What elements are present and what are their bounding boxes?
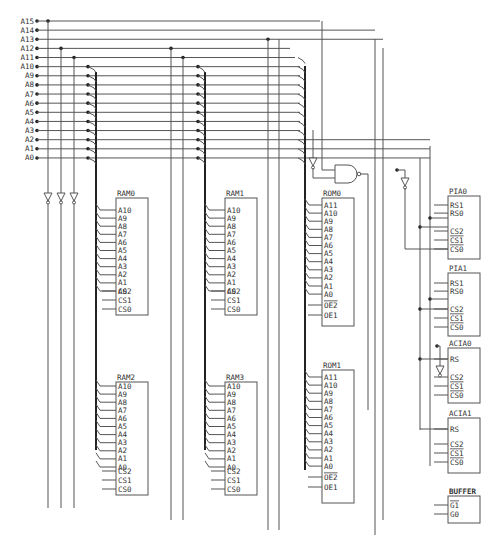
junction-dot: [86, 65, 90, 69]
pin-label: CS0: [227, 305, 241, 314]
pin-label: CS2: [118, 287, 132, 296]
pin-label: OE1: [324, 483, 338, 492]
address-label-a3: A3: [25, 126, 34, 135]
pin-label: CS0: [450, 458, 464, 467]
pin-label: CS0: [450, 323, 464, 332]
pin-label: CS2: [227, 287, 241, 296]
pin-label: G0: [450, 510, 460, 519]
pin-label: RS0: [450, 209, 464, 218]
pin-label: CS2: [450, 305, 464, 314]
pin-label: CS1: [450, 449, 464, 458]
chip-ram1: RAM1A10A9A8A7A6A5A4A3A2A1A0CS2CS1CS0: [225, 189, 257, 315]
pin-label: CS0: [450, 245, 464, 254]
address-label-a0: A0: [25, 153, 35, 162]
pin-label: CS1: [227, 296, 241, 305]
address-label-a7: A7: [25, 90, 34, 99]
inverter-icon: [44, 193, 52, 204]
pin-label: A0: [324, 462, 334, 471]
address-label-a14: A14: [20, 26, 34, 35]
pin-label: RS0: [450, 287, 464, 296]
inverter-icon: [70, 193, 78, 204]
pin-label: OE2: [324, 301, 338, 310]
inverter-icon: [57, 193, 65, 204]
chip-pia1: PIA1RS1RS0CS2CS1CS0: [448, 264, 480, 336]
address-label-a6: A6: [25, 99, 35, 108]
address-label-a2: A2: [25, 135, 34, 144]
chip-rom0: ROM0A11A10A9A8A7A6A5A4A3A2A1A0OE2OE1: [322, 189, 354, 326]
pin-label: CS1: [450, 314, 464, 323]
pin-label: OE1: [324, 311, 338, 320]
chip-ram0: RAM0A10A9A8A7A6A5A4A3A2A1A0CS2CS1CS0: [116, 189, 148, 315]
address-label-a4: A4: [25, 117, 35, 126]
pin-label: CS1: [118, 296, 132, 305]
pin-label: CS1: [450, 382, 464, 391]
inverter-icon: [309, 158, 317, 169]
address-label-a9: A9: [25, 71, 34, 80]
address-label-a12: A12: [20, 44, 34, 53]
pin-label: CS1: [118, 476, 132, 485]
chip-title: RAM1: [226, 189, 244, 198]
chip-pia0: PIA0RS1RS0CS2CS1CS0: [448, 187, 480, 259]
pin-label: CS2: [450, 373, 464, 382]
pin-label: CS2: [118, 467, 132, 476]
pin-label: G1: [450, 501, 459, 510]
chip-acia0: ACIA0RSCS2CS1CS0: [448, 339, 480, 403]
inverter-icon: [401, 178, 409, 189]
chip-ram3: RAM3A10A9A8A7A6A5A4A3A2A1A0CS2CS1CS0: [225, 373, 257, 495]
address-label-a5: A5: [25, 108, 34, 117]
pin-label: CS2: [227, 467, 241, 476]
pin-label: CS0: [227, 485, 241, 494]
chip-title: PIA1: [449, 264, 467, 273]
address-label-a1: A1: [25, 144, 34, 153]
pin-label: RS: [450, 425, 460, 434]
pin-label: A0: [324, 290, 334, 299]
pin-label: CS0: [118, 305, 132, 314]
pin-label: CS0: [450, 391, 464, 400]
pin-label: CS1: [227, 476, 241, 485]
chip-title: ROM1: [323, 361, 341, 370]
address-bus: A15A14A13A12A11A10A9A8A7A6A5A4A3A2A1A0: [20, 17, 34, 163]
pin-label: CS2: [450, 440, 464, 449]
junction-dot: [86, 92, 90, 96]
chip-buffer: BUFFERG1G0: [448, 487, 480, 523]
address-label-a15: A15: [20, 17, 34, 26]
chip-title: ACIA0: [449, 339, 472, 348]
chip-title: ACIA1: [449, 409, 472, 418]
chip-acia1: ACIA1RSCS2CS1CS0: [448, 409, 480, 473]
address-label-a11: A11: [20, 53, 34, 62]
pin-label: CS2: [450, 227, 464, 236]
chip-rom1: ROM1A11A10A9A8A7A6A5A4A3A2A1A0OE2OE1: [322, 361, 354, 503]
junction-dot: [86, 120, 90, 124]
address-label-a10: A10: [20, 62, 34, 71]
nand-gate-icon: [335, 165, 361, 183]
pin-label: CS0: [118, 485, 132, 494]
address-label-a8: A8: [25, 80, 35, 89]
inverter-icon: [436, 366, 444, 377]
chip-title: BUFFER: [449, 487, 477, 496]
schematic-canvas: A15A14A13A12A11A10A9A8A7A6A5A4A3A2A1A0RA…: [0, 0, 499, 547]
pin-label: RS: [450, 355, 460, 364]
chip-ram2: RAM2A10A9A8A7A6A5A4A3A2A1A0CS2CS1CS0: [116, 373, 148, 495]
chip-title: ROM0: [323, 189, 342, 198]
pin-label: OE2: [324, 473, 338, 482]
address-label-a13: A13: [20, 35, 34, 44]
chip-title: PIA0: [449, 187, 468, 196]
pin-label: CS1: [450, 236, 464, 245]
chip-title: RAM0: [117, 189, 136, 198]
